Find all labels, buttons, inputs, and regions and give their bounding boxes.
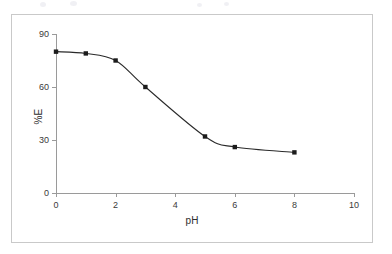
x-tick-label: 4 xyxy=(173,200,178,210)
plot-area: 0306090 0246810 xyxy=(56,34,354,193)
x-tick-label: 6 xyxy=(232,200,237,210)
y-axis-title: %E xyxy=(33,109,44,125)
x-tick-label: 2 xyxy=(113,200,118,210)
data-point-marker xyxy=(233,145,237,149)
data-point-marker xyxy=(292,150,296,154)
x-tick-label: 8 xyxy=(292,200,297,210)
series-line xyxy=(56,52,294,153)
data-point-marker xyxy=(54,49,58,53)
y-tick-label: 30 xyxy=(39,135,49,145)
data-point-marker xyxy=(143,85,147,89)
series-plot xyxy=(50,28,361,200)
y-tick-label: 90 xyxy=(39,29,49,39)
y-tick-label: 0 xyxy=(44,188,49,198)
x-tick-label: 10 xyxy=(349,200,359,210)
data-point-marker xyxy=(84,51,88,55)
data-point-marker xyxy=(113,58,117,62)
x-axis-title: pH xyxy=(12,215,372,226)
scan-artifact xyxy=(224,2,229,6)
scan-artifact xyxy=(40,2,46,7)
scan-artifact xyxy=(197,3,202,7)
y-tick-label: 60 xyxy=(39,82,49,92)
scan-artifact xyxy=(70,1,77,6)
chart-figure: 0306090 0246810 %E pH xyxy=(11,14,373,243)
x-tick-label: 0 xyxy=(53,200,58,210)
data-point-marker xyxy=(203,134,207,138)
series-markers xyxy=(54,49,297,154)
